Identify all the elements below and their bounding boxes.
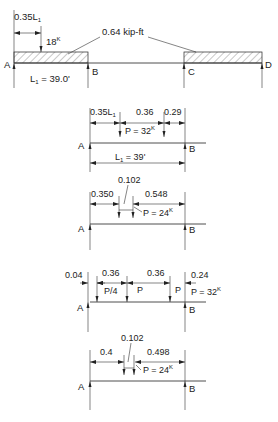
case1-diagram: A B 0.35L1 0.36 0.29 P = 32K L1 = 39' xyxy=(78,107,206,172)
support-label-a: A xyxy=(77,302,84,313)
support-arrow-a xyxy=(89,381,92,387)
support-arrow-a xyxy=(89,224,92,230)
load-arrow-2 xyxy=(133,369,136,375)
dim-label-2: 0.36 xyxy=(136,107,154,117)
support-label-a: A xyxy=(78,381,85,392)
distributed-load-label: 0.64 kip-ft xyxy=(102,26,144,37)
case2-diagram: A B 0.350 0.102 0.548 P = 24K xyxy=(78,175,206,250)
dim-label-3: 0.36 xyxy=(147,268,165,278)
support-label-b: B xyxy=(92,66,98,77)
distributed-load-cd xyxy=(184,52,262,63)
load-arrow-3 xyxy=(169,296,172,302)
load-arrow-2 xyxy=(132,212,135,218)
support-label-b: B xyxy=(189,143,195,154)
support-arrow-a xyxy=(13,63,16,69)
load-arrow-1 xyxy=(123,369,126,375)
load-arrow-1 xyxy=(96,296,99,302)
leader-0102 xyxy=(128,343,131,362)
load-arrow-1 xyxy=(119,131,122,137)
support-arrow-b xyxy=(184,381,187,387)
support-arrow-b xyxy=(87,63,90,69)
top-beam: A B C D 0.35L1 18K 0.64 kip-ft L1 = 39.0… xyxy=(4,10,272,88)
case3-diagram: A B 0.04 0.36 0.36 0.24 P/4 P P P = 32K xyxy=(65,268,221,332)
beam-influence-diagram: A B C D 0.35L1 18K 0.64 kip-ft L1 = 39.0… xyxy=(0,0,278,422)
load-arrow-2 xyxy=(126,296,129,302)
support-arrow-a xyxy=(87,302,90,308)
leader-0102 xyxy=(124,185,128,204)
dim-label-2: 0.102 xyxy=(121,333,144,343)
dim-label-1: 0.35L1 xyxy=(90,107,117,118)
dim-label-2: 0.36 xyxy=(102,268,120,278)
load-label: P = 24K xyxy=(143,207,173,218)
support-label-b: B xyxy=(189,304,195,315)
point-load-label: 18K xyxy=(46,36,61,47)
support-arrow-d xyxy=(261,63,264,69)
load-arrow-1 xyxy=(118,212,121,218)
support-arrow-b xyxy=(184,224,187,230)
support-label-c: C xyxy=(188,66,195,77)
support-label-a: A xyxy=(78,140,85,151)
load-label: P = 32K xyxy=(191,286,221,297)
leader-load xyxy=(134,207,142,212)
support-label-a: A xyxy=(4,59,11,70)
dim-label-4: 0.24 xyxy=(191,270,209,280)
support-label-b: B xyxy=(189,224,195,235)
dim-label-1: 0.4 xyxy=(100,347,113,357)
support-arrow-b xyxy=(184,143,187,149)
load-label: P = 24K xyxy=(143,364,173,375)
load-label-2: P xyxy=(137,285,143,295)
load-arrow-2 xyxy=(163,131,166,137)
span-label: L1 = 39.0' xyxy=(30,73,70,85)
span-label: L1 = 39' xyxy=(115,152,146,163)
support-label-b: B xyxy=(189,383,195,394)
support-arrow-b xyxy=(184,302,187,308)
support-arrow-a xyxy=(89,143,92,149)
leader-line-cd xyxy=(148,37,196,52)
dim-label-2: 0.102 xyxy=(118,175,141,185)
support-arrow-c xyxy=(183,63,186,69)
leader-line-ab xyxy=(68,37,100,54)
load-18k-arrow xyxy=(40,46,43,52)
dim-label-1: 0.04 xyxy=(65,270,83,280)
dim-label-3: 0.548 xyxy=(145,189,168,199)
dim-label-3: 0.29 xyxy=(164,107,182,117)
dim-label-1: 0.350 xyxy=(91,189,114,199)
leader-load xyxy=(136,365,141,370)
dim-load-position: 0.35L1 xyxy=(14,11,42,23)
support-label-a: A xyxy=(78,223,85,234)
support-label-d: D xyxy=(265,59,272,70)
case4-diagram: A B 0.4 0.102 0.498 P = 24K xyxy=(78,333,206,410)
load-label-1: P/4 xyxy=(104,286,118,296)
dim-label-3: 0.498 xyxy=(147,347,170,357)
distributed-load-ab xyxy=(14,52,88,63)
load-label-3: P xyxy=(175,285,181,295)
load-label: P = 32K xyxy=(125,125,155,136)
